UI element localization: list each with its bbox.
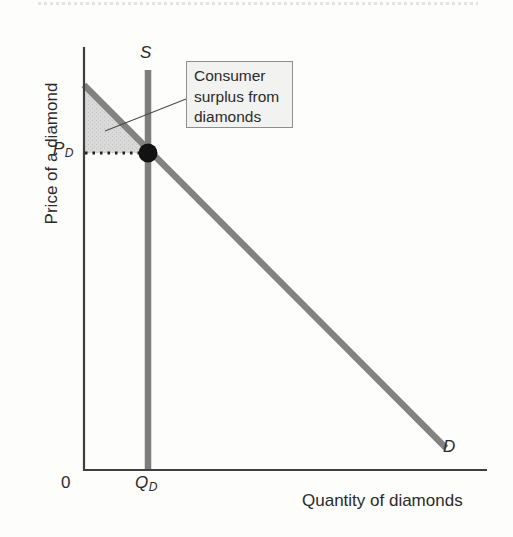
demand-curve-label: D [443, 438, 455, 455]
x-axis-title: Quantity of diamonds [302, 492, 463, 509]
quantity-subscript: D [148, 480, 157, 494]
demand-curve [84, 85, 446, 448]
supply-curve-label: S [140, 44, 151, 61]
supply-demand-figure: Consumer surplus from diamonds Price of … [0, 0, 513, 537]
quantity-symbol: Q [135, 473, 148, 492]
x-axis-tick-label-qd: QD [135, 474, 157, 493]
consumer-surplus-callout: Consumer surplus from diamonds [186, 61, 293, 128]
price-symbol: P [53, 139, 64, 158]
price-subscript: D [64, 146, 73, 160]
equilibrium-point-marker [139, 144, 158, 163]
y-axis-tick-label-pd: PD [53, 140, 74, 159]
origin-label: 0 [61, 474, 70, 491]
callout-label: Consumer surplus from diamonds [194, 66, 291, 128]
